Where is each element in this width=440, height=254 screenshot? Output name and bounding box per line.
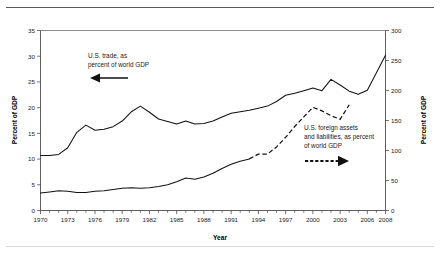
- y-tick-label-right: 150: [391, 117, 402, 124]
- x-tick-label: 1985: [170, 216, 184, 223]
- x-tick-label: 1982: [143, 216, 157, 223]
- x-axis-ticks: [41, 211, 386, 215]
- y-tick-label-left: 35: [28, 27, 35, 34]
- y-axis-left-title: Percent of GDP: [11, 95, 18, 144]
- annotation-us-foreign-assets-arrow-head: [338, 156, 349, 166]
- y-tick-label-left: 5: [32, 181, 36, 188]
- y-tick-label-left: 25: [28, 78, 35, 85]
- y-tick-label-right: 50: [391, 177, 398, 184]
- x-tick-label: 1994: [252, 216, 266, 223]
- y-tick-label-left: 20: [28, 104, 35, 111]
- x-tick-label: 2008: [379, 216, 393, 223]
- x-tick-label: 2003: [333, 216, 347, 223]
- x-tick-label: 1997: [279, 216, 293, 223]
- y-tick-label-right: 100: [391, 147, 402, 154]
- y-tick-label-right: 200: [391, 87, 402, 94]
- x-tick-label: 2006: [360, 216, 374, 223]
- y-tick-label-right: 300: [391, 27, 402, 34]
- annotation-us-foreign-assets-line-1: U.S. foreign assets: [304, 124, 358, 132]
- y-tick-label-left: 0: [32, 207, 36, 214]
- x-tick-label: 1991: [224, 216, 238, 223]
- x-tick-label: 2000: [306, 216, 320, 223]
- figure-root: 1970197319761979198219851988199119941997…: [0, 0, 440, 254]
- x-tick-label: 1976: [88, 216, 102, 223]
- series-us-foreign-assets-dashed-segment: [249, 105, 349, 159]
- series-us-foreign-assets-solid-segment: [41, 159, 250, 193]
- annotation-us-foreign-assets: U.S. foreign assets and liabilities, as …: [304, 124, 374, 166]
- line-chart-svg: 1970197319761979198219851988199119941997…: [0, 0, 440, 254]
- y-tick-label-right: 0: [391, 207, 395, 214]
- x-tick-label: 1970: [34, 216, 48, 223]
- y-tick-label-left: 10: [28, 155, 35, 162]
- series-us-trade-line: [41, 55, 386, 155]
- y-tick-label-left: 15: [28, 130, 35, 137]
- x-axis-tick-labels: 1970197319761979198219851988199119941997…: [34, 216, 393, 223]
- annotation-us-trade-line-1: U.S. trade, as: [88, 52, 127, 59]
- y-axis-right-ticks: [386, 31, 389, 211]
- y-axis-left-ticks: [37, 31, 40, 211]
- x-tick-label: 1988: [197, 216, 211, 223]
- annotation-us-trade-arrow-head: [90, 73, 100, 82]
- y-axis-left-tick-labels: 05101520253035: [28, 27, 35, 214]
- annotation-us-trade-line-2: percent of world GDP: [88, 61, 149, 69]
- y-axis-right-tick-labels: 050100150200250300: [391, 27, 402, 214]
- x-tick-label: 1979: [115, 216, 129, 223]
- x-axis-title: Year: [213, 234, 227, 241]
- y-tick-label-right: 250: [391, 57, 402, 64]
- annotation-us-foreign-assets-line-2: and liabilities, as percent: [304, 133, 374, 141]
- annotation-us-trade: U.S. trade, as percent of world GDP: [88, 52, 149, 83]
- annotation-us-foreign-assets-line-3: of world GDP: [304, 142, 342, 149]
- y-axis-right-title: Percent of GDP: [420, 95, 427, 144]
- y-tick-label-left: 30: [28, 53, 35, 60]
- chart-canvas: 1970197319761979198219851988199119941997…: [0, 0, 440, 254]
- x-tick-label: 1973: [61, 216, 75, 223]
